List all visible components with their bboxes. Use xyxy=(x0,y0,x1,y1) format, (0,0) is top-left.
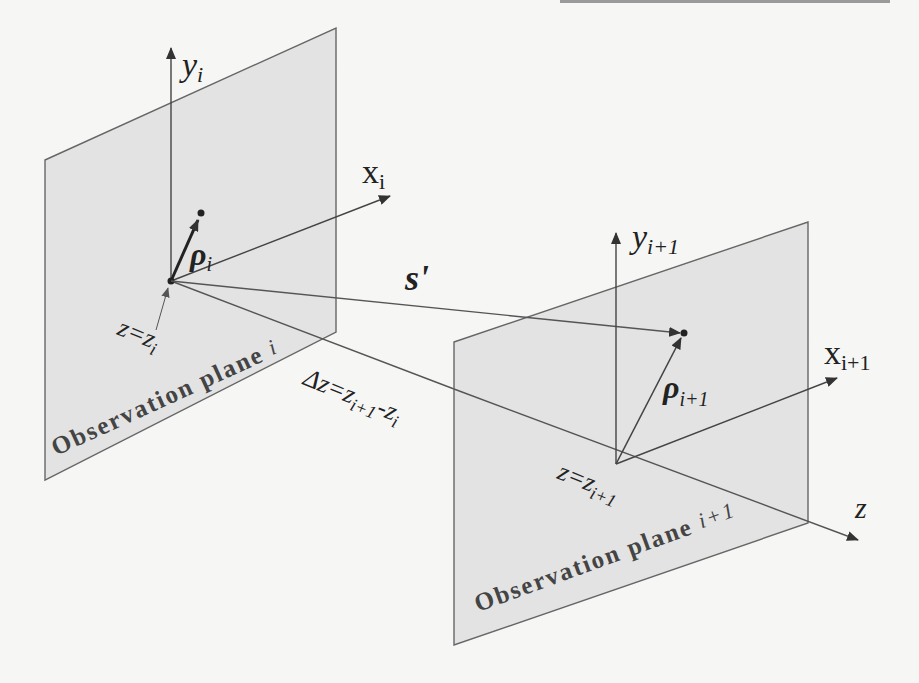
point-i xyxy=(198,210,205,217)
point-i-plus-1 xyxy=(681,330,688,337)
z-axis-label: z xyxy=(854,491,867,524)
x-i-label: xi xyxy=(362,153,385,194)
y-i-label: yi xyxy=(179,46,203,87)
observation-planes-diagram: yi xi ρi z=zi Observation planei s' Δz=z… xyxy=(0,0,919,683)
x-i-plus-1-label: xi+1 xyxy=(824,334,871,375)
s-prime-label: s' xyxy=(404,258,429,298)
delta-z-label: Δz=zi+1-zi xyxy=(297,362,406,432)
y-i-plus-1-label: yi+1 xyxy=(629,218,679,259)
